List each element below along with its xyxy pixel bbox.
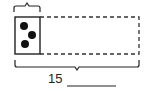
dot-icon [28, 31, 36, 39]
unknown-part-box [40, 17, 139, 54]
dot-icon [20, 22, 28, 30]
known-part-box [15, 17, 40, 54]
dot-icon [21, 40, 29, 48]
top-brace [14, 3, 40, 12]
tape-diagram [0, 0, 148, 91]
total-brace [15, 60, 139, 70]
total-label: 15 [48, 72, 62, 86]
